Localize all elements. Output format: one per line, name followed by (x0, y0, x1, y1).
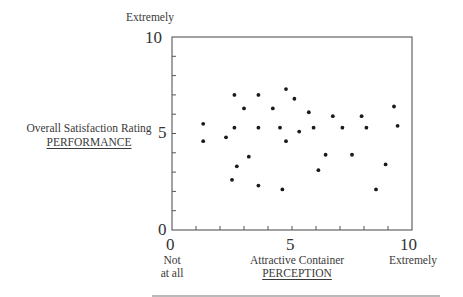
y-axis-title: Overall Satisfaction Rating PERFORMANCE (22, 123, 156, 148)
data-point (284, 87, 288, 91)
data-point (297, 130, 301, 134)
x-axis-low-anchor-label: Not at all (150, 255, 194, 279)
y-axis-title-text: Overall Satisfaction Rating (22, 123, 156, 135)
y-axis-high-anchor-label: Extremely (126, 12, 174, 24)
data-point (224, 135, 228, 139)
data-point (396, 124, 400, 128)
x-axis-title-text: Attractive Container (232, 255, 362, 267)
data-point (233, 93, 237, 97)
x-axis-subtitle: PERCEPTION (232, 268, 362, 280)
data-point (307, 110, 311, 114)
plot-frame (172, 37, 412, 230)
scatter-chart: Extremely 10 5 0 Overall Satisfaction Ra… (0, 0, 463, 297)
data-point (374, 188, 378, 192)
x-tick-label-10: 10 (400, 236, 417, 253)
data-point (201, 122, 205, 126)
x-low-line1: Not (150, 255, 194, 267)
y-tick-label-10: 10 (145, 29, 162, 46)
data-point (384, 162, 388, 166)
data-point (392, 105, 396, 109)
axes (172, 37, 412, 230)
data-point (278, 126, 282, 130)
data-point (331, 114, 335, 118)
data-point (281, 188, 285, 192)
data-point (365, 126, 369, 130)
data-point (360, 114, 364, 118)
data-point (257, 93, 261, 97)
data-point (257, 184, 261, 188)
data-point (257, 126, 261, 130)
data-point (324, 153, 328, 157)
data-points (201, 87, 399, 191)
y-axis-subtitle: PERFORMANCE (22, 137, 156, 149)
data-point (201, 139, 205, 143)
data-point (312, 126, 316, 130)
x-tick-label-5: 5 (286, 236, 295, 253)
x-low-line2: at all (150, 268, 194, 280)
data-point (341, 126, 345, 130)
data-point (233, 126, 237, 130)
data-point (350, 153, 354, 157)
data-point (271, 107, 275, 111)
data-point (317, 168, 321, 172)
data-point (293, 97, 297, 101)
plot-area (0, 0, 463, 297)
data-point (242, 107, 246, 111)
data-point (284, 139, 288, 143)
x-axis-high-anchor-label: Extremely (389, 255, 437, 267)
data-point (235, 164, 239, 168)
data-point (247, 155, 251, 159)
y-tick-label-5: 5 (158, 124, 167, 141)
data-point (230, 178, 234, 182)
x-axis-title: Attractive Container PERCEPTION (232, 255, 362, 279)
x-tick-label-0: 0 (166, 236, 175, 253)
